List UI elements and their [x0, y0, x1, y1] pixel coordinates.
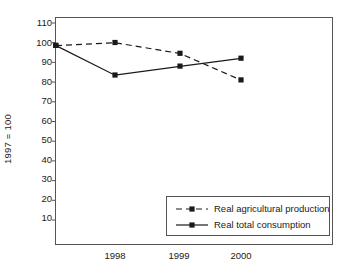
legend-label: Real total consumption [214, 219, 311, 231]
legend-key-dashed-line-icon [174, 201, 210, 217]
legend-key-solid-line-icon [174, 217, 210, 233]
series-line-real-total-consumption [56, 46, 241, 76]
legend-label: Real agricultural production [214, 203, 330, 215]
legend-item-real-total-consumption: Real total consumption [167, 217, 331, 233]
line-chart: 1997 = 100 110 100 90 80 70 60 50 40 30 … [0, 0, 353, 274]
legend: Real agricultural production Real total … [166, 196, 330, 236]
y-axis-tick-marks [52, 23, 55, 220]
legend-item-real-agricultural-production: Real agricultural production [167, 201, 331, 217]
